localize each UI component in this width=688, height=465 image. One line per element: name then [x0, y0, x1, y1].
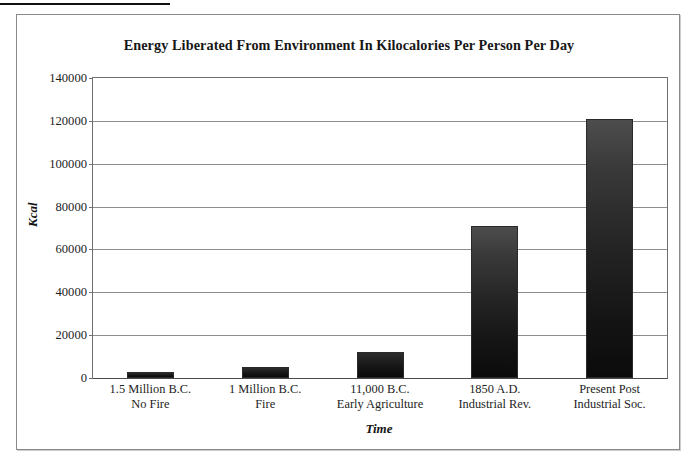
x-category-label-line: Fire — [229, 397, 301, 412]
x-category-label-line: 1850 A.D. — [458, 382, 531, 397]
y-tick-mark — [89, 207, 93, 208]
chart-title: Energy Liberated From Environment In Kil… — [17, 37, 681, 54]
y-tick-label: 20000 — [56, 328, 87, 343]
y-tick-label: 140000 — [49, 71, 87, 86]
x-category-label-line: Present Post — [573, 382, 645, 397]
y-tick-label: 40000 — [56, 285, 87, 300]
gridline — [93, 292, 667, 293]
bar — [127, 372, 174, 378]
y-axis-title: Kcal — [25, 202, 41, 227]
y-tick-mark — [89, 292, 93, 293]
x-category-label-line: 1.5 Million B.C. — [110, 382, 192, 397]
chart-frame: Energy Liberated From Environment In Kil… — [16, 14, 680, 450]
gridline — [93, 121, 667, 122]
y-tick-mark — [89, 121, 93, 122]
gridline — [93, 249, 667, 250]
y-tick-mark — [89, 164, 93, 165]
x-category-label: 11,000 B.C.Early Agriculture — [337, 382, 423, 412]
y-tick-mark — [89, 335, 93, 336]
y-tick-label: 80000 — [56, 199, 87, 214]
bar — [471, 226, 518, 378]
page-top-rule — [0, 3, 170, 5]
y-tick-label: 0 — [81, 371, 87, 386]
bar — [586, 119, 633, 378]
bar — [357, 352, 404, 378]
gridline — [93, 164, 667, 165]
y-tick-mark — [89, 78, 93, 79]
x-category-label-line: Industrial Soc. — [573, 397, 645, 412]
y-tick-mark — [89, 249, 93, 250]
x-category-label: 1 Million B.C.Fire — [229, 382, 301, 412]
gridline — [93, 207, 667, 208]
x-category-label-line: 11,000 B.C. — [337, 382, 423, 397]
plot-area: 0200004000060000800001000001200001400001… — [92, 77, 668, 379]
y-tick-label: 120000 — [49, 113, 87, 128]
x-category-label-line: No Fire — [110, 397, 192, 412]
x-axis-title: Time — [92, 421, 666, 437]
x-category-label-line: 1 Million B.C. — [229, 382, 301, 397]
y-tick-mark — [89, 378, 93, 379]
bar — [242, 367, 289, 378]
gridline — [93, 335, 667, 336]
x-category-label: 1850 A.D.Industrial Rev. — [458, 382, 531, 412]
x-category-label: Present PostIndustrial Soc. — [573, 382, 645, 412]
x-category-label: 1.5 Million B.C.No Fire — [110, 382, 192, 412]
x-category-label-line: Industrial Rev. — [458, 397, 531, 412]
y-tick-label: 100000 — [49, 156, 87, 171]
y-tick-label: 60000 — [56, 242, 87, 257]
x-category-label-line: Early Agriculture — [337, 397, 423, 412]
